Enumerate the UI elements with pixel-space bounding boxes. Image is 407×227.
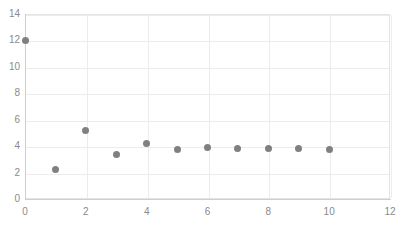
gridline-vertical	[269, 15, 270, 198]
y-axis-tick-label: 8	[0, 87, 20, 98]
data-point	[22, 37, 29, 44]
x-axis-line	[25, 199, 391, 200]
gridline-vertical	[148, 15, 149, 198]
y-axis-tick-label: 2	[0, 167, 20, 178]
plot-area	[25, 14, 390, 199]
y-axis-tick-label: 0	[0, 193, 20, 204]
data-point	[174, 146, 181, 153]
gridline-vertical	[87, 15, 88, 198]
x-axis-tick-label: 0	[10, 206, 40, 217]
x-axis-tick-label: 12	[375, 206, 405, 217]
x-axis-tick-label: 2	[71, 206, 101, 217]
gridline-vertical	[330, 15, 331, 198]
data-point	[113, 151, 120, 158]
gridline-vertical	[391, 15, 392, 198]
x-axis-tick-label: 6	[193, 206, 223, 217]
x-axis-tick-label: 4	[132, 206, 162, 217]
y-axis-tick-label: 6	[0, 114, 20, 125]
y-axis-tick-label: 10	[0, 61, 20, 72]
x-axis-tick-label: 10	[314, 206, 344, 217]
gridline-vertical	[209, 15, 210, 198]
y-axis-tick-label: 4	[0, 140, 20, 151]
data-point	[204, 144, 211, 151]
gridline-horizontal	[26, 121, 389, 122]
gridline-horizontal	[26, 174, 389, 175]
y-axis-tick-label: 12	[0, 34, 20, 45]
gridline-horizontal	[26, 41, 389, 42]
gridline-horizontal	[26, 15, 389, 16]
y-axis-tick-label: 14	[0, 8, 20, 19]
data-point	[265, 145, 272, 152]
scatter-chart: 02468101214 024681012	[0, 0, 407, 227]
data-point	[326, 146, 333, 153]
gridline-horizontal	[26, 68, 389, 69]
data-point	[52, 166, 59, 173]
x-axis-tick-label: 8	[253, 206, 283, 217]
gridline-horizontal	[26, 94, 389, 95]
